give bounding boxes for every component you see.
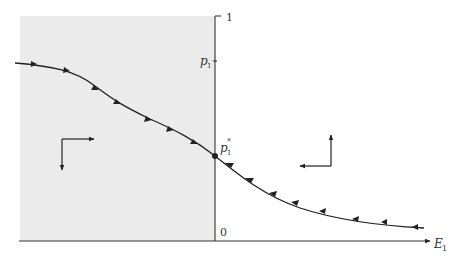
svg-text:1: 1	[207, 62, 211, 70]
arrow-icon	[412, 224, 418, 230]
origin-label: 0	[220, 226, 227, 239]
right-path-arrows	[225, 163, 418, 230]
svg-text:1: 1	[227, 149, 231, 157]
shaded-region	[20, 16, 215, 241]
p1-star-label: p 1 *	[220, 137, 231, 157]
svg-text:1: 1	[442, 244, 447, 253]
svg-text:*: *	[227, 137, 231, 146]
right-direction-indicator	[300, 135, 331, 166]
x-axis-label: E 1	[433, 237, 447, 253]
phase-diagram: 1 0 E 1 p 1 p 1 *	[0, 0, 456, 261]
y-top-label: 1	[226, 11, 233, 24]
equilibrium-point	[212, 153, 218, 159]
